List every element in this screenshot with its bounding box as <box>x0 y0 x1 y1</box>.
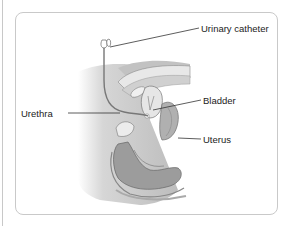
label-urethra: Urethra <box>21 109 53 119</box>
label-bladder: Bladder <box>203 96 236 106</box>
label-uterus: Uterus <box>203 135 231 145</box>
leader-uterus <box>178 138 201 139</box>
label-urinary-catheter: Urinary catheter <box>201 24 269 34</box>
bladder <box>141 86 162 118</box>
leader-catheter <box>110 28 199 47</box>
